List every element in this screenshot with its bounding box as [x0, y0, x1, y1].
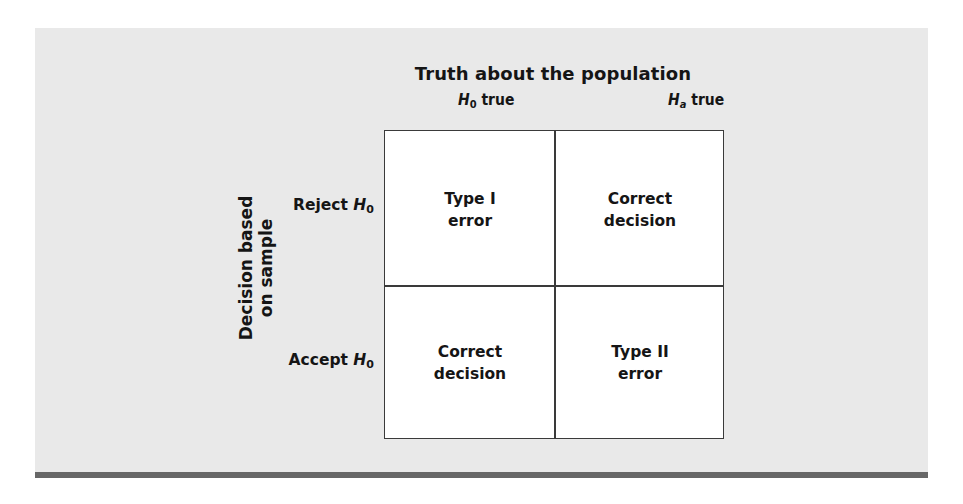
cell-type-ii-error: Type II error	[555, 341, 725, 385]
column-header-h0-true: H0 true	[458, 91, 514, 111]
column-header-ha-true: Ha true	[668, 91, 724, 111]
row-divider	[385, 285, 723, 287]
cell-type-i-error: Type I error	[385, 188, 555, 232]
column-group-title: Truth about the population	[380, 63, 726, 84]
row-header-accept-h0: Accept H0	[244, 351, 374, 371]
row-header-reject-h0: Reject H0	[244, 196, 374, 216]
decision-matrix: Type I error Correct decision Correct de…	[384, 130, 724, 439]
cell-correct-decision-reject: Correct decision	[555, 188, 725, 232]
cell-correct-decision-accept: Correct decision	[385, 341, 555, 385]
bottom-rule	[35, 472, 928, 478]
